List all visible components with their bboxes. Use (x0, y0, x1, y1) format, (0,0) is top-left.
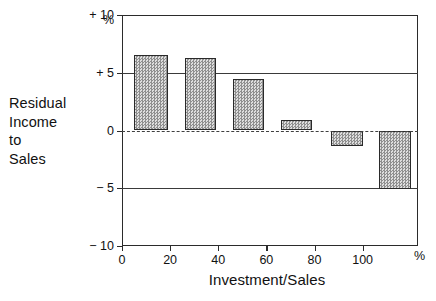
x-tick-label: 0 (119, 253, 126, 267)
y-tick-mark (117, 73, 122, 74)
x-tick-mark (170, 246, 171, 251)
x-axis-unit-label: % (414, 249, 425, 263)
plot-area: + 10+ 50− 5− 10 020406080100 (122, 15, 418, 246)
x-tick-label: 100 (352, 253, 373, 267)
y-tick-label: + 10 (89, 8, 114, 22)
x-axis-title: Investment/Sales (0, 271, 436, 288)
bar (233, 79, 264, 131)
x-tick-mark (122, 246, 123, 251)
y-axis-title-line-4: Sales (9, 150, 109, 169)
y-tick-mark (117, 131, 122, 132)
bar (379, 131, 410, 190)
y-axis-title-line-3: to (9, 131, 109, 150)
x-tick-mark (363, 246, 364, 251)
x-tick-label: 60 (259, 253, 273, 267)
y-tick-label: 0 (107, 124, 114, 138)
y-axis-title-line-1: Residual (9, 94, 109, 113)
x-axis-title-text: Investment/Sales (111, 271, 326, 288)
bar (331, 131, 362, 146)
y-axis-title: Residual Income to Sales (9, 94, 109, 168)
y-tick-label: + 5 (96, 66, 114, 80)
zero-reference-line (122, 131, 418, 132)
x-tick-mark (266, 246, 267, 251)
y-axis-title-line-2: Income (9, 113, 109, 132)
bar (281, 120, 312, 130)
y-tick-label: − 5 (96, 181, 114, 195)
x-tick-mark (315, 246, 316, 251)
bar (134, 55, 168, 130)
x-tick-label: 20 (163, 253, 177, 267)
y-tick-mark (117, 15, 122, 16)
x-tick-label: 40 (211, 253, 225, 267)
plot-frame-top (122, 15, 418, 16)
gridline (122, 188, 418, 189)
bar (185, 58, 216, 131)
y-tick-mark (117, 188, 122, 189)
chart-figure: Residual Income to Sales % % + 10+ 50− 5… (0, 0, 436, 301)
x-tick-mark (218, 246, 219, 251)
x-axis-line (122, 245, 418, 246)
y-tick-label: − 10 (89, 239, 114, 253)
x-tick-label: 80 (308, 253, 322, 267)
